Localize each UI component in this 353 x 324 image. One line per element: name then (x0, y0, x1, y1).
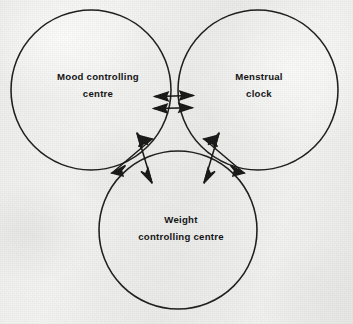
label-menstrual-line-1: Menstrual (235, 69, 283, 86)
double-arrow-horizontal-lower (154, 104, 192, 113)
double-arrow-horizontal-upper (155, 91, 193, 101)
circle-outlines (11, 10, 338, 309)
label-mood-line-1: Mood controlling (57, 69, 139, 86)
label-weight-controlling-centre: Weight controlling centre (138, 212, 224, 245)
label-menstrual-line-2: clock (235, 85, 283, 102)
diagram-figure: Mood controlling centre Menstrual clock … (0, 0, 353, 324)
label-weight-line-2: controlling centre (138, 228, 224, 245)
label-weight-line-1: Weight (138, 212, 224, 229)
diagram-canvas (0, 0, 353, 324)
label-mood-controlling-centre: Mood controlling centre (57, 69, 139, 102)
arrow-cluster-mood-menstrual (154, 91, 193, 113)
label-menstrual-clock: Menstrual clock (235, 69, 283, 102)
label-mood-line-2: centre (57, 85, 139, 102)
